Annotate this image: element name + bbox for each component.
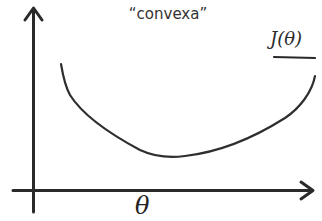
function-label: J(θ): [270, 28, 302, 49]
convex-function-diagram: “convexa” J(θ) θ: [0, 0, 322, 221]
x-axis-label: θ: [135, 194, 149, 218]
y-axis: [25, 8, 42, 212]
function-label-underline: [274, 57, 315, 58]
convex-curve: [61, 64, 315, 157]
diagram-title: “convexa”: [118, 5, 218, 23]
x-axis: [13, 182, 313, 199]
